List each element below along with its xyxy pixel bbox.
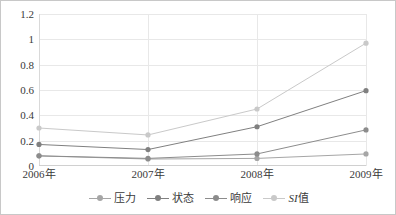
y-axis-tick-label: 0.6 <box>20 85 34 96</box>
y-axis-tick-label: 1.2 <box>20 9 34 20</box>
legend-label: 状态 <box>172 193 194 204</box>
data-point-marker <box>363 41 368 46</box>
legend-label: SI值 <box>288 193 308 204</box>
y-axis-tick-label: 0.2 <box>20 135 34 146</box>
y-axis-tick-label: 0.8 <box>20 59 34 70</box>
legend-item[interactable]: 响应 <box>205 193 252 204</box>
series-line <box>39 130 366 159</box>
data-point-marker <box>36 153 41 158</box>
data-point-marker <box>254 156 259 161</box>
data-point-marker <box>363 88 368 93</box>
legend-marker-icon <box>147 194 169 203</box>
plot-area <box>39 14 366 166</box>
legend-marker-icon <box>263 194 285 203</box>
x-axis-tick-label: 2009年 <box>350 169 383 180</box>
data-point-marker <box>36 142 41 147</box>
legend-item[interactable]: SI值 <box>263 193 308 204</box>
legend-label: 压力 <box>114 193 136 204</box>
data-point-marker <box>36 125 41 130</box>
data-point-marker <box>254 106 259 111</box>
y-axis-tick-label: 0.4 <box>20 110 34 121</box>
chart-legend: 压力状态响应SI值 <box>1 193 396 204</box>
data-point-marker <box>145 147 150 152</box>
legend-marker-icon <box>205 194 227 203</box>
legend-item[interactable]: 压力 <box>89 193 136 204</box>
legend-label: 响应 <box>230 193 252 204</box>
data-point-marker <box>145 132 150 137</box>
x-axis-tick-label: 2008年 <box>241 169 274 180</box>
y-axis: 00.20.40.60.811.2 <box>1 14 34 166</box>
line-chart-figure: 00.20.40.60.811.2 2006年2007年2008年2009年 压… <box>0 0 396 215</box>
data-point-marker <box>145 156 150 161</box>
data-point-marker <box>254 151 259 156</box>
series-line <box>39 43 366 135</box>
y-axis-tick-label: 1 <box>29 34 35 45</box>
data-point-marker <box>363 127 368 132</box>
x-axis-tick-label: 2007年 <box>132 169 165 180</box>
series-lines <box>39 14 366 166</box>
data-point-marker <box>254 124 259 129</box>
x-axis: 2006年2007年2008年2009年 <box>39 169 366 185</box>
legend-item[interactable]: 状态 <box>147 193 194 204</box>
x-axis-tick-label: 2006年 <box>23 169 56 180</box>
data-point-marker <box>363 151 368 156</box>
legend-marker-icon <box>89 194 111 203</box>
